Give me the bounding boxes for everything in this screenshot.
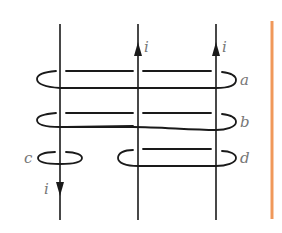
current-label-middle: i bbox=[144, 38, 149, 56]
arrow-up-icon bbox=[134, 42, 142, 56]
loop-label-b: b bbox=[240, 113, 250, 131]
arrow-down-icon bbox=[56, 182, 64, 196]
current-label-left: i bbox=[44, 180, 49, 198]
loop-d bbox=[118, 149, 236, 166]
loop-label-a: a bbox=[240, 71, 249, 89]
loop-label-d: d bbox=[240, 149, 250, 167]
loop-label-c: c bbox=[24, 149, 33, 167]
loop-b bbox=[37, 113, 236, 130]
arrow-up-icon bbox=[212, 42, 220, 56]
loop-a bbox=[37, 71, 236, 88]
current-label-right: i bbox=[222, 38, 227, 56]
amperian-loops-diagram: i i i a b c d bbox=[0, 0, 282, 233]
